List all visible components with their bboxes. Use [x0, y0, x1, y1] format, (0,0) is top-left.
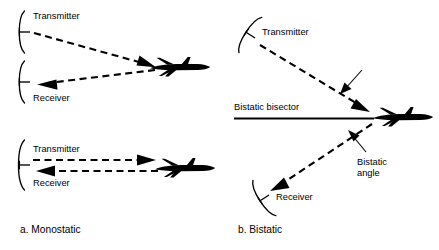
receive-ray-arrowhead-a1	[37, 80, 58, 90]
transmitter-label-a1: Transmitter	[33, 11, 80, 21]
transmit-ray-arrowhead-a1	[137, 56, 157, 68]
aircraft-target-a1	[150, 57, 210, 76]
bisector-label-b: Bistatic bisector	[234, 102, 299, 112]
radar-geometry-figure: Transmitter Receiver Transmitter Receive…	[0, 0, 439, 250]
bistatic-angle-label-line2: angle	[357, 168, 380, 178]
receiver-label-b: Receiver	[276, 192, 313, 202]
caption-bistatic: b. Bistatic	[238, 224, 282, 235]
receive-ray-arrowhead-b	[270, 178, 290, 192]
receiver-antenna-a1	[19, 61, 30, 103]
transmitter-antenna-a1	[19, 11, 30, 53]
transmitter-label-a2: Transmitter	[33, 144, 80, 154]
transmitter-label-b: Transmitter	[262, 27, 309, 37]
receive-ray-a1	[48, 70, 155, 83]
transmit-ray-a1	[34, 33, 146, 64]
receiver-label-a2: Receiver	[33, 178, 70, 188]
aircraft-target-a2	[155, 158, 215, 177]
diagram-canvas: Transmitter Receiver Transmitter Receive…	[0, 0, 439, 250]
transmit-ray-b	[260, 45, 356, 103]
caption-monostatic: a. Monostatic	[20, 224, 81, 235]
receiver-label-a1: Receiver	[33, 93, 70, 103]
aircraft-target-b	[373, 107, 433, 126]
transmit-ray-arrowhead-a2	[137, 155, 156, 166]
colocated-antenna-a2	[19, 140, 31, 190]
receive-ray-arrowhead-a2	[36, 166, 55, 177]
bistatic-angle-label-line1: Bistatic	[357, 157, 387, 167]
